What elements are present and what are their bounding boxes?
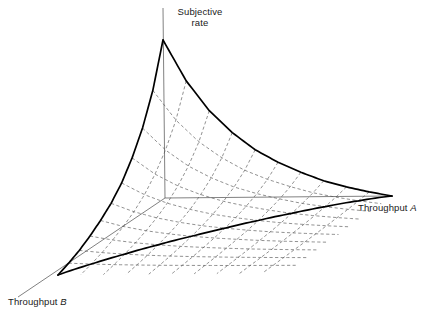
subjective-rate-label-line2: rate (192, 17, 209, 28)
throughput-b-label-prefix: Throughput (8, 296, 58, 307)
subjective-rate-axis-label: Subjective rate (169, 7, 231, 29)
throughput-a-axis-label: Throughput A (358, 203, 417, 214)
subjective-rate-label-line1: Subjective (178, 6, 223, 17)
throughput-b-axis-label: Throughput B (8, 297, 67, 308)
throughput-a-label-prefix: Throughput (358, 202, 408, 213)
throughput-a-label-variable: A (410, 202, 416, 213)
surface-plot-figure (0, 0, 430, 316)
throughput-b-label-variable: B (60, 296, 66, 307)
